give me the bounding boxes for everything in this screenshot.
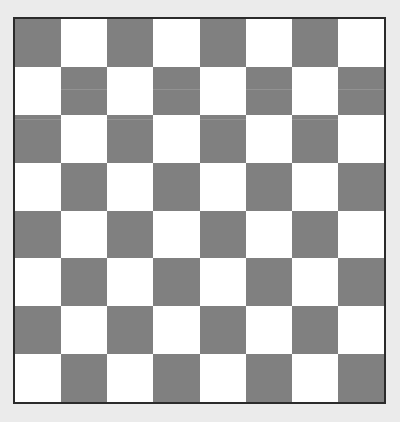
- checkerboard-square-light: [153, 306, 199, 354]
- checkerboard-square-dark: [15, 306, 61, 354]
- checkerboard-square-dark: [107, 306, 153, 354]
- checkerboard-square-light: [292, 354, 338, 402]
- checkerboard-square-light: [107, 354, 153, 402]
- checkerboard-square-dark: [61, 163, 107, 211]
- checkerboard-square-dark: [200, 211, 246, 259]
- checkerboard-square-dark: [292, 19, 338, 67]
- checkerboard-square-light: [15, 354, 61, 402]
- checkerboard-square-dark: [153, 163, 199, 211]
- checkerboard-square-dark: [107, 19, 153, 67]
- checkerboard-square-light: [246, 306, 292, 354]
- checkerboard-square-dark: [246, 163, 292, 211]
- checkerboard-square-dark: [292, 306, 338, 354]
- checkerboard-square-dark: [61, 67, 107, 115]
- checkerboard-square-light: [246, 19, 292, 67]
- checkerboard-square-dark: [292, 115, 338, 163]
- checkerboard-square-dark: [153, 354, 199, 402]
- checkerboard-square-light: [246, 211, 292, 259]
- checkerboard-square-light: [200, 258, 246, 306]
- checkerboard-square-dark: [15, 211, 61, 259]
- checkerboard-square-light: [107, 67, 153, 115]
- checkerboard-square-dark: [153, 258, 199, 306]
- checkerboard-square-dark: [200, 19, 246, 67]
- checkerboard-square-light: [338, 115, 384, 163]
- checkerboard-square-light: [338, 211, 384, 259]
- checkerboard-square-dark: [15, 115, 61, 163]
- checkerboard-square-light: [153, 115, 199, 163]
- image-canvas: [0, 0, 400, 422]
- checkerboard-square-light: [292, 67, 338, 115]
- checkerboard-square-dark: [246, 354, 292, 402]
- checkerboard-grid: [15, 19, 384, 402]
- checkerboard-square-light: [246, 115, 292, 163]
- checkerboard-square-dark: [61, 354, 107, 402]
- checkerboard-square-dark: [338, 354, 384, 402]
- checkerboard-square-light: [61, 19, 107, 67]
- checkerboard-square-light: [200, 67, 246, 115]
- checkerboard-square-light: [292, 163, 338, 211]
- checkerboard-square-light: [338, 19, 384, 67]
- checkerboard-square-light: [61, 115, 107, 163]
- checkerboard-frame: [13, 17, 386, 404]
- checkerboard-square-dark: [15, 19, 61, 67]
- checkerboard-square-light: [338, 306, 384, 354]
- checkerboard-square-dark: [61, 258, 107, 306]
- checkerboard-square-dark: [338, 67, 384, 115]
- checkerboard-square-light: [107, 163, 153, 211]
- checkerboard-square-light: [107, 258, 153, 306]
- checkerboard-square-dark: [246, 258, 292, 306]
- checkerboard-square-dark: [338, 163, 384, 211]
- checkerboard-square-dark: [107, 115, 153, 163]
- checkerboard-square-dark: [292, 211, 338, 259]
- checkerboard-square-light: [153, 211, 199, 259]
- checkerboard-square-light: [15, 258, 61, 306]
- checkerboard-square-dark: [338, 258, 384, 306]
- checkerboard-square-dark: [153, 67, 199, 115]
- checkerboard-square-dark: [107, 211, 153, 259]
- checkerboard-square-light: [15, 67, 61, 115]
- checkerboard-square-light: [200, 354, 246, 402]
- checkerboard-square-light: [153, 19, 199, 67]
- checkerboard-square-light: [200, 163, 246, 211]
- checkerboard-square-light: [15, 163, 61, 211]
- checkerboard-square-light: [61, 211, 107, 259]
- checkerboard-square-dark: [200, 115, 246, 163]
- checkerboard-square-light: [292, 258, 338, 306]
- checkerboard-square-light: [61, 306, 107, 354]
- checkerboard-square-dark: [246, 67, 292, 115]
- checkerboard-square-dark: [200, 306, 246, 354]
